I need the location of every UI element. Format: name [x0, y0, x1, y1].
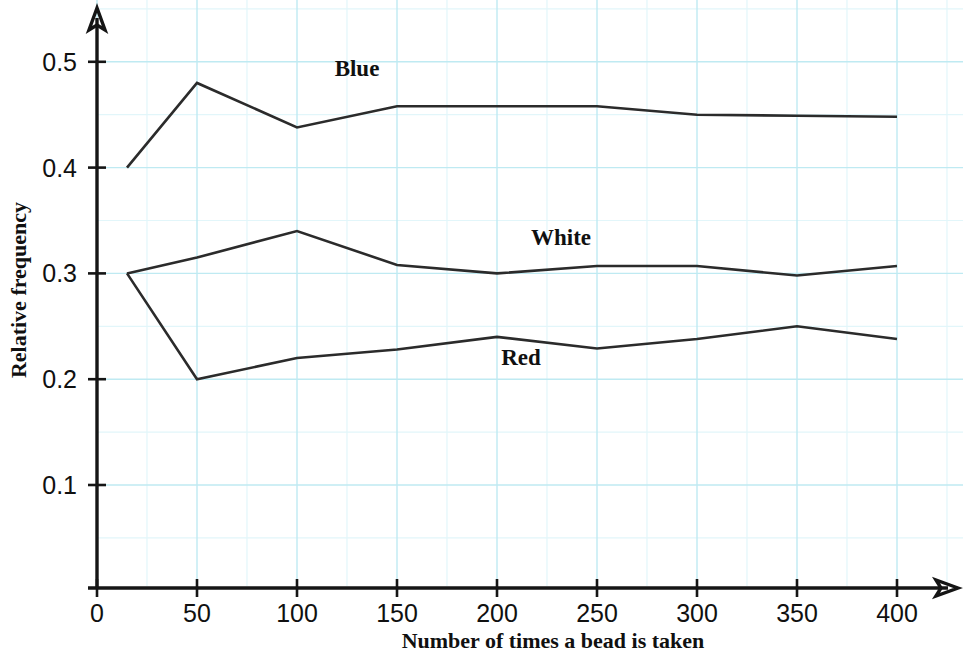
series-labels: BlueWhiteRed: [335, 56, 591, 371]
x-axis-tick-label: 50: [183, 599, 211, 627]
axis-tick-labels: 0501001502002503003504000.10.20.30.40.5: [42, 48, 918, 627]
x-axis-tick-label: 250: [576, 599, 618, 627]
x-axis-tick-label: 200: [476, 599, 518, 627]
x-axis-tick-label: 0: [90, 599, 104, 627]
x-axis-tick-label: 350: [776, 599, 818, 627]
axes: [88, 8, 958, 596]
y-axis-tick-label: 0.4: [42, 154, 77, 182]
x-axis-tick-label: 400: [876, 599, 918, 627]
y-axis-tick-label: 0.3: [42, 259, 77, 287]
y-axis-tick-label: 0.1: [42, 471, 77, 499]
data-series: [127, 83, 897, 379]
y-axis-tick-label: 0.5: [42, 48, 77, 76]
x-axis-tick-label: 300: [676, 599, 718, 627]
chart-page: 0501001502002503003504000.10.20.30.40.5 …: [0, 0, 963, 656]
series-label-red: Red: [501, 345, 541, 370]
series-label-white: White: [531, 225, 591, 250]
x-axis-title: Number of times a bead is taken: [402, 628, 705, 653]
minor-gridlines: [97, 0, 963, 586]
series-line-white: [127, 231, 897, 275]
x-axis-tick-label: 150: [376, 599, 418, 627]
x-axis-tick-label: 100: [276, 599, 318, 627]
major-gridlines: [97, 0, 963, 586]
relative-frequency-line-chart: 0501001502002503003504000.10.20.30.40.5 …: [0, 0, 963, 656]
series-line-blue: [127, 83, 897, 168]
y-axis-tick-label: 0.2: [42, 365, 77, 393]
series-label-blue: Blue: [335, 56, 380, 81]
y-axis-title: Relative frequency: [6, 202, 31, 378]
